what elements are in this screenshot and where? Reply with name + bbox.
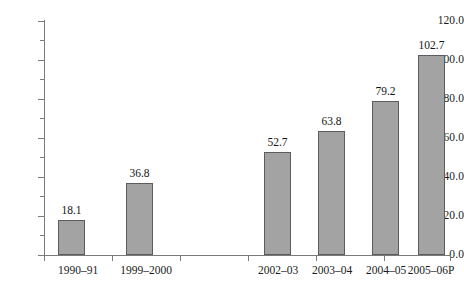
- bar-value-label: 63.8: [321, 115, 341, 127]
- x-axis-tick: [112, 256, 113, 261]
- x-axis-category-label: 1999–2000: [120, 264, 172, 277]
- bar-chart: 120.0 100.0 80.0 60.0 40.0 20.0 0.0 18.1…: [0, 0, 464, 292]
- x-axis-category-label: 2003–04: [312, 264, 352, 277]
- x-axis-category-label: 1990–91: [58, 264, 98, 277]
- x-axis-tick: [44, 256, 45, 261]
- x-axis-tick: [316, 256, 317, 261]
- x-axis-category-label: 2005–06P: [408, 264, 455, 277]
- x-axis-tick: [180, 256, 181, 261]
- bar-value-label: 18.1: [61, 204, 81, 216]
- bar-2004-05: [372, 101, 399, 255]
- bar-2003-04: [318, 131, 345, 255]
- x-axis-tick: [450, 256, 451, 261]
- bar-value-label: 36.8: [129, 167, 149, 179]
- bar-1999-2000: [126, 183, 153, 255]
- bar-value-label: 79.2: [375, 85, 395, 97]
- y-axis-line: [44, 20, 45, 256]
- bar-2005-06P: [418, 55, 445, 255]
- bar-value-label: 52.7: [267, 136, 287, 148]
- bar-2002-03: [264, 152, 291, 255]
- y-axis-tick-label: 120.0: [428, 15, 464, 27]
- bar-1990-91: [58, 220, 85, 255]
- x-axis-tick: [384, 256, 385, 261]
- x-axis-category-label: 2004–05: [366, 264, 406, 277]
- bar-value-label: 102.7: [419, 39, 445, 51]
- x-axis-category-label: 2002–03: [258, 264, 298, 277]
- x-axis-tick: [248, 256, 249, 261]
